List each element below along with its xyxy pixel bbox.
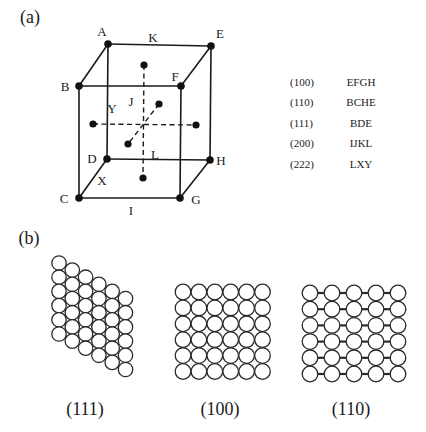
vertex-label-F: F [171,69,178,84]
cube-edge-FG [180,86,181,198]
atom [105,284,119,298]
atom [78,341,92,355]
corner-atom-H [206,156,214,164]
plane-points: BCHE [346,96,376,108]
atom [175,284,191,300]
point-label-J: J [128,94,133,109]
atom [368,318,384,334]
miller-index: (110) [290,96,314,109]
atom [239,284,255,300]
atom [255,364,271,380]
atom [175,364,191,380]
vertex-label-D: D [87,151,96,166]
fcc-unit-cube: AEBFDHCG KJYLXI [60,24,226,218]
atom [390,318,406,334]
face-center-atom-bottom [139,174,146,181]
point-label-L: L [151,147,159,162]
atom [92,291,106,305]
atom [191,348,207,364]
panel-b-label: (b) [19,228,40,249]
atom [223,332,239,348]
table-row: (200) IJKL [290,137,373,150]
atom [368,366,384,382]
atom [92,306,106,320]
atom [239,364,255,380]
face-center-atom-front [124,140,131,147]
plane-points: EFGH [347,76,376,88]
atom [324,366,340,382]
atom [207,364,223,380]
atom [302,285,318,301]
atom [191,316,207,332]
atom [105,313,119,327]
point-label-I: I [129,203,133,218]
cube-atoms [75,40,215,202]
face-center-atom-back [155,100,162,107]
atom [52,256,66,270]
atom [368,301,384,317]
atom [52,313,66,327]
vertex-label-G: G [191,192,200,207]
face-center-atom-left [89,120,96,127]
vertex-label-C: C [60,191,69,206]
atom [346,334,362,350]
point-label-K: K [148,30,158,45]
atom [255,332,271,348]
atom [118,334,132,348]
atom [302,334,318,350]
atom [191,364,207,380]
vertex-label-E: E [216,26,224,41]
plane-110-caption: (110) [332,399,370,420]
panel-a-label: (a) [20,7,40,28]
atom [324,285,340,301]
atom [390,334,406,350]
corner-atom-E [207,42,215,50]
atom [92,348,106,362]
atom [105,341,119,355]
atom [65,291,79,305]
atom [324,350,340,366]
atom [324,301,340,317]
cube-edge-AE [108,44,211,46]
plane-table: (100) EFGH (110) BCHE (111) BDE (200) IJ… [290,76,376,171]
table-row: (110) BCHE [290,96,376,109]
atom [346,318,362,334]
plane-111-atom-layout [52,256,133,377]
atom [191,300,207,316]
plane-100-caption: (100) [201,399,240,420]
table-row: (111) BDE [290,117,372,130]
atom [255,316,271,332]
atom [255,300,271,316]
atom [92,334,106,348]
atom [390,366,406,382]
plane-points: LXY [350,158,373,170]
atom [346,285,362,301]
atom [223,300,239,316]
atom [223,284,239,300]
atom [105,298,119,312]
atom [52,298,66,312]
atom [302,318,318,334]
atom [324,334,340,350]
atom [223,364,239,380]
atom [207,332,223,348]
atom [92,277,106,291]
atom [390,285,406,301]
cube-edge-EF [181,46,211,86]
atom [207,316,223,332]
crystal-planes-figure: (a) AEBFDHCG KJYLXI (100) EFGH (110) BCH… [0,0,426,432]
atom [65,306,79,320]
atom [223,348,239,364]
atom [346,350,362,366]
atom [302,350,318,366]
atom [255,284,271,300]
point-label-X: X [97,173,107,188]
atom [175,316,191,332]
atom [65,277,79,291]
atom [78,313,92,327]
miller-index: (111) [290,117,313,130]
atom [78,284,92,298]
atom [390,350,406,366]
atom [324,318,340,334]
atom [191,332,207,348]
